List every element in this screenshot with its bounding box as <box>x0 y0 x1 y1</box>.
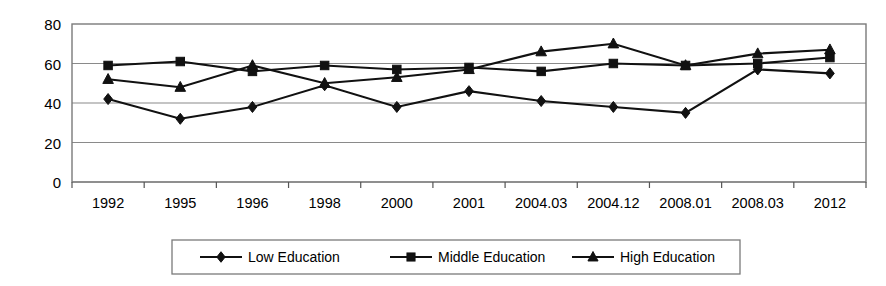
data-point-marker <box>465 86 474 97</box>
y-tick-label: 20 <box>44 135 61 152</box>
legend-item-label: Low Education <box>248 249 340 265</box>
x-tick-label: 1995 <box>164 195 196 211</box>
x-tick-label: 1996 <box>236 195 268 211</box>
chart-legend: Low EducationMiddle EducationHigh Educat… <box>172 240 740 274</box>
data-point-marker <box>608 38 619 48</box>
y-tick-label: 0 <box>53 174 61 191</box>
data-point-marker <box>681 107 690 118</box>
data-point-marker <box>320 61 328 69</box>
chart-canvas: 020406080 1992199519961998200020012004.0… <box>0 0 886 286</box>
x-tick-label: 2004.03 <box>515 195 567 211</box>
x-tick-label: 2001 <box>453 195 485 211</box>
data-point-marker <box>247 60 258 70</box>
x-tick-label: 2008.01 <box>659 195 711 211</box>
data-series-group <box>103 38 835 124</box>
data-point-marker <box>537 67 545 75</box>
data-point-marker <box>176 57 184 65</box>
data-point-marker <box>103 74 114 84</box>
plot-gridlines <box>72 64 866 183</box>
x-tick-label: 1998 <box>309 195 341 211</box>
x-tick-label: 2012 <box>814 195 846 211</box>
x-tick-label: 2004.12 <box>587 195 639 211</box>
data-point-marker <box>753 59 761 67</box>
data-point-marker <box>176 113 185 124</box>
y-tick-label: 80 <box>44 16 61 33</box>
data-point-marker <box>609 59 617 67</box>
x-tick-label: 2000 <box>381 195 413 211</box>
legend-item-low-education[interactable]: Low Education <box>200 249 340 265</box>
data-point-marker <box>826 53 834 61</box>
y-tick-label: 60 <box>44 56 61 73</box>
legend-marker-square-icon <box>407 253 415 261</box>
y-axis-labels: 020406080 <box>44 16 61 191</box>
line-chart: 020406080 1992199519961998200020012004.0… <box>0 0 886 286</box>
data-point-marker <box>826 68 835 79</box>
x-axis-ticks <box>72 182 866 188</box>
data-point-marker <box>537 96 546 107</box>
legend-item-label: High Education <box>620 249 715 265</box>
data-point-marker <box>104 61 112 69</box>
y-tick-label: 40 <box>44 95 61 112</box>
x-axis-labels: 1992199519961998200020012004.032004.1220… <box>92 195 846 211</box>
legend-item-label: Middle Education <box>438 249 545 265</box>
x-tick-label: 1992 <box>92 195 124 211</box>
x-tick-label: 2008.03 <box>732 195 784 211</box>
